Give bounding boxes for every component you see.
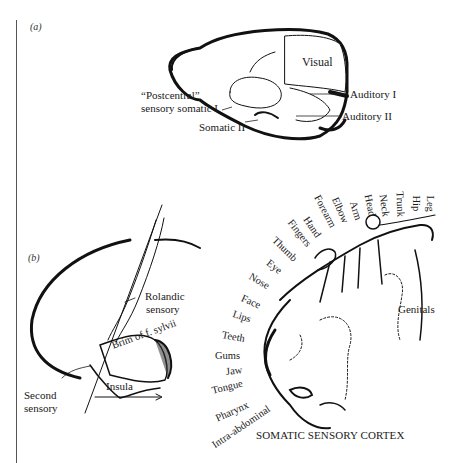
label-postcentral-line2: sensory somatic I [141, 102, 218, 114]
label-hip: Hip [411, 196, 422, 212]
panel-a-brain [170, 30, 347, 139]
label-rolandic-line1: Rolandic [145, 290, 185, 302]
label-genitals: Genitals [398, 303, 435, 315]
label-postcentral-line1: “Postcentral” [141, 89, 200, 101]
label-second-line2: sensory [24, 402, 58, 414]
label-auditory-1: Auditory I [350, 88, 396, 100]
label-insula: Insula [106, 380, 133, 392]
brain-drawings [0, 0, 455, 463]
label-somatic-2: Somatic II [199, 121, 245, 133]
label-jaw: Jaw [225, 364, 242, 377]
label-gums: Gums [215, 350, 240, 361]
panel-b-tag: (b) [28, 252, 40, 263]
label-trunk: Trunk [395, 191, 407, 217]
label-auditory-2: Auditory II [342, 110, 392, 122]
label-second-line1: Second [24, 389, 56, 401]
figure-caption: SOMATIC SENSORY CORTEX [256, 429, 404, 441]
label-rolandic-line2: sensory [146, 303, 180, 315]
label-visual: Visual [302, 56, 333, 68]
label-leg: Leg [425, 196, 436, 212]
